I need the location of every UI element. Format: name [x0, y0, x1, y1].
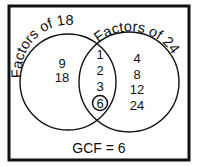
common-factor: 3 — [96, 79, 103, 94]
factor-24-only: 12 — [130, 82, 144, 97]
greatest-common-factor: 6 — [96, 96, 103, 111]
factor-24-only: 8 — [133, 67, 140, 82]
factor-24-only: 4 — [133, 51, 140, 66]
factor-18-only: 18 — [55, 70, 69, 85]
common-factor: 2 — [96, 63, 103, 78]
factor-24-only: 24 — [130, 98, 144, 113]
venn-diagram: Factors of 18 Factors of 24 9 18 1 2 3 6… — [0, 0, 197, 166]
common-factor: 1 — [96, 47, 103, 62]
factor-18-only: 9 — [58, 56, 65, 71]
gcf-result: GCF = 6 — [72, 140, 126, 156]
